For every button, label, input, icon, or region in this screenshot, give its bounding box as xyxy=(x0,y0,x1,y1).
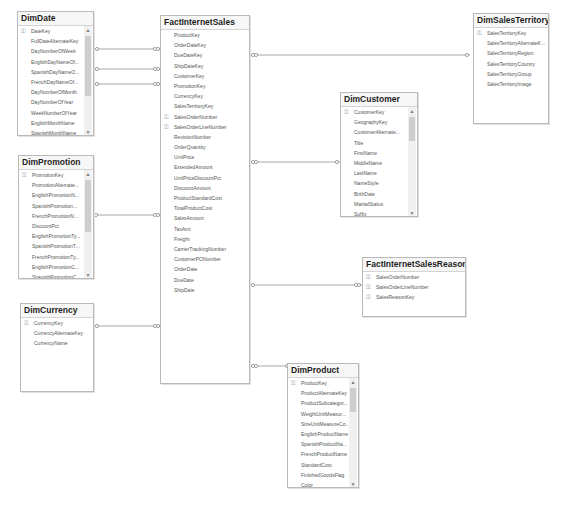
column-row[interactable]: ProductStandardCost xyxy=(161,193,249,203)
column-row[interactable]: CurrencyKey xyxy=(161,91,249,101)
table-dimpromotion[interactable]: DimPromotion ⚿PromotionKey PromotionAlte… xyxy=(18,155,94,279)
scroll-down-icon[interactable]: ▼ xyxy=(349,480,357,488)
column-row[interactable]: CurrencyName xyxy=(21,338,93,348)
column-row[interactable]: SalesTerritoryRegion xyxy=(474,48,548,58)
scroll-up-icon[interactable]: ▲ xyxy=(84,26,92,35)
column-row[interactable]: SizeUnitMeasureCo... xyxy=(288,419,358,429)
column-row[interactable]: UnitPriceDiscountPct xyxy=(161,173,249,183)
column-row[interactable]: TaxAmt xyxy=(161,224,249,234)
column-row[interactable]: EnglishProductName xyxy=(288,429,358,439)
column-row[interactable]: ⚿DateKey xyxy=(18,26,93,36)
column-row[interactable]: DiscountPct xyxy=(19,221,93,231)
column-row[interactable]: Title xyxy=(341,138,417,148)
column-row[interactable]: DayNumberOfWeek xyxy=(18,46,93,56)
column-row[interactable]: SalesTerritoryImage xyxy=(474,79,548,89)
column-row[interactable]: FrenchPromotionN... xyxy=(19,211,93,221)
column-row[interactable]: PromotionKey xyxy=(161,81,249,91)
column-row[interactable]: ⚿SalesTerritoryKey xyxy=(474,28,548,38)
column-row[interactable]: FrenchDayNameOf... xyxy=(18,77,93,87)
column-row[interactable]: FrenchProductName xyxy=(288,449,358,459)
column-row[interactable]: RevisionNumber xyxy=(161,132,249,142)
column-row[interactable]: ⚿SalesOrderLineNumber xyxy=(161,122,249,132)
column-row[interactable]: FirstName xyxy=(341,148,417,158)
column-row[interactable]: SalesAmount xyxy=(161,213,249,223)
column-row[interactable]: SpanishPromotionT... xyxy=(19,241,93,251)
column-row[interactable]: NameStyle xyxy=(341,178,417,188)
column-row[interactable]: CustomerAlternate... xyxy=(341,127,417,137)
column-row[interactable]: Freight xyxy=(161,234,249,244)
column-row[interactable]: SalesTerritoryCountry xyxy=(474,59,548,69)
column-row[interactable]: FrenchPromotionTy... xyxy=(19,252,93,262)
scroll-thumb[interactable] xyxy=(85,180,91,232)
column-row[interactable]: CurrencyAlternateKey xyxy=(21,328,93,338)
scroll-down-icon[interactable]: ▼ xyxy=(84,271,92,279)
column-row[interactable]: FinishedGoodsFlag xyxy=(288,470,358,480)
column-row[interactable]: OrderDate xyxy=(161,264,249,274)
table-factinternetsales[interactable]: FactInternetSales ProductKey OrderDateKe… xyxy=(160,15,250,384)
column-row[interactable]: GeographyKey xyxy=(341,117,417,127)
table-dimsalesterritory[interactable]: DimSalesTerritory ⚿SalesTerritoryKey Sal… xyxy=(473,13,549,124)
column-row[interactable]: SalesTerritoryGroup xyxy=(474,69,548,79)
column-row[interactable]: ⚿CurrencyKey xyxy=(21,318,93,328)
scroll-thumb[interactable] xyxy=(409,117,415,141)
vertical-scrollbar[interactable]: ▲ ▼ xyxy=(84,170,92,279)
column-row[interactable]: ExtendedAmount xyxy=(161,162,249,172)
column-row[interactable]: ProductSubcategor... xyxy=(288,398,358,408)
column-row[interactable]: CarrierTrackingNumber xyxy=(161,244,249,254)
column-row[interactable]: Color xyxy=(288,480,358,488)
column-row[interactable]: SpanishPromotion... xyxy=(19,201,93,211)
column-row[interactable]: MaritalStatus xyxy=(341,199,417,209)
scroll-thumb[interactable] xyxy=(350,388,356,412)
column-row[interactable]: ShipDate xyxy=(161,285,249,295)
column-row[interactable]: ⚿SalesOrderNumber xyxy=(363,272,465,282)
scroll-down-icon[interactable]: ▼ xyxy=(84,128,92,136)
scroll-thumb[interactable] xyxy=(85,36,91,96)
column-row[interactable]: ⚿SalesOrderLineNumber xyxy=(363,282,465,292)
column-row[interactable]: CustomerPONumber xyxy=(161,254,249,264)
column-row[interactable]: ShipDateKey xyxy=(161,61,249,71)
column-row[interactable]: ⚿CustomerKey xyxy=(341,107,417,117)
column-row[interactable]: SalesTerritoryKey xyxy=(161,101,249,111)
column-row[interactable]: ⚿SalesOrderNumber xyxy=(161,112,249,122)
column-row[interactable]: DayNumberOfMonth xyxy=(18,87,93,97)
column-row[interactable]: EnglishPromotionN... xyxy=(19,190,93,200)
column-row[interactable]: OrderQuantity xyxy=(161,142,249,152)
column-row[interactable]: SpanishProductNa... xyxy=(288,439,358,449)
vertical-scrollbar[interactable]: ▲ ▼ xyxy=(349,378,357,488)
column-row[interactable]: OrderDateKey xyxy=(161,40,249,50)
table-dimproduct[interactable]: DimProduct ⚿ProductKey ProductAlternateK… xyxy=(287,363,359,488)
column-row[interactable]: CustomerKey xyxy=(161,71,249,81)
column-row[interactable]: ProductAlternateKey xyxy=(288,388,358,398)
table-dimdate[interactable]: DimDate ⚿DateKey FullDateAlternateKey Da… xyxy=(17,11,94,136)
column-row[interactable]: EnglishPromotionTy... xyxy=(19,231,93,241)
column-row[interactable]: DayNumberOfYear xyxy=(18,97,93,107)
column-row[interactable]: StandardCost xyxy=(288,460,358,470)
column-row[interactable]: DiscountAmount xyxy=(161,183,249,193)
column-row[interactable]: DueDate xyxy=(161,275,249,285)
column-row[interactable]: EnglishMonthName xyxy=(18,118,93,128)
column-row[interactable]: WeekNumberOfYear xyxy=(18,108,93,118)
column-row[interactable]: ⚿SalesReasonKey xyxy=(363,292,465,302)
column-row[interactable]: SpanishPromotionC... xyxy=(19,272,93,279)
column-row[interactable]: WeightUnitMeasur... xyxy=(288,409,358,419)
vertical-scrollbar[interactable]: ▲ ▼ xyxy=(408,107,416,217)
column-row[interactable]: TotalProductCost xyxy=(161,203,249,213)
vertical-scrollbar[interactable]: ▲ ▼ xyxy=(84,26,92,136)
column-row[interactable]: UnitPrice xyxy=(161,152,249,162)
column-row[interactable]: MiddleName xyxy=(341,158,417,168)
column-row[interactable]: EnglishDayNameOf... xyxy=(18,57,93,67)
table-factinternetsalesreason[interactable]: FactInternetSalesReason ⚿SalesOrderNumbe… xyxy=(362,257,466,317)
column-row[interactable]: SpanishMonthName xyxy=(18,128,93,136)
column-row[interactable]: Suffix xyxy=(341,209,417,217)
column-row[interactable]: LastName xyxy=(341,168,417,178)
scroll-up-icon[interactable]: ▲ xyxy=(408,107,416,116)
column-row[interactable]: EnglishPromotionC... xyxy=(19,262,93,272)
column-row[interactable]: SpanishDayNameO... xyxy=(18,67,93,77)
scroll-up-icon[interactable]: ▲ xyxy=(349,378,357,387)
scroll-up-icon[interactable]: ▲ xyxy=(84,170,92,179)
column-row[interactable]: SalesTerritoryAlternateK... xyxy=(474,38,548,48)
scroll-down-icon[interactable]: ▼ xyxy=(408,209,416,217)
column-row[interactable]: BirthDate xyxy=(341,189,417,199)
table-dimcustomer[interactable]: DimCustomer ⚿CustomerKey GeographyKey Cu… xyxy=(340,92,418,217)
column-row[interactable]: ⚿ProductKey xyxy=(288,378,358,388)
